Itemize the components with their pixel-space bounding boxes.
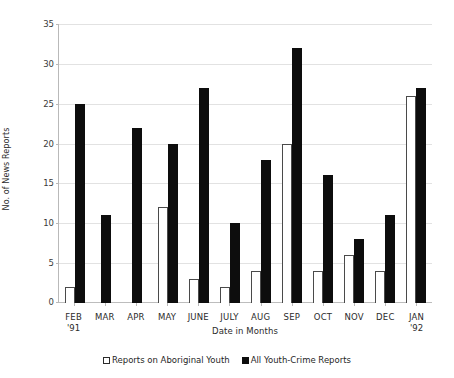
bar-sep-series2 bbox=[292, 48, 302, 303]
x-tickmark-nov bbox=[354, 303, 355, 306]
x-tick-label-july: JULY bbox=[214, 312, 245, 323]
x-tick-label-mar: MAR bbox=[89, 312, 120, 323]
legend-entry-2[interactable]: All Youth-Crime Reports bbox=[242, 355, 351, 365]
x-tick-june: JUNE bbox=[183, 303, 214, 343]
x-tickmark-jan bbox=[416, 303, 417, 306]
bar-group-apr bbox=[121, 24, 152, 303]
bar-group-sep bbox=[277, 24, 308, 303]
bar-nov-series1 bbox=[344, 255, 354, 303]
y-tick-label-5: 5 bbox=[49, 258, 54, 268]
y-tick-label-30: 30 bbox=[43, 59, 54, 69]
bar-may-series2 bbox=[168, 144, 178, 303]
chart-legend: Reports on Aboriginal YouthAll Youth-Cri… bbox=[0, 355, 454, 365]
bar-feb-series2 bbox=[75, 104, 85, 303]
x-tick-label-sep: SEP bbox=[276, 312, 307, 323]
x-tick-dec: DEC bbox=[370, 303, 401, 343]
x-tick-july: JULY bbox=[214, 303, 245, 343]
y-axis-title: No. of News Reports bbox=[2, 104, 11, 234]
y-tick-label-25: 25 bbox=[43, 99, 54, 109]
x-tick-apr: APR bbox=[120, 303, 151, 343]
x-axis-title: Date in Months bbox=[58, 326, 432, 336]
x-tick-label-dec: DEC bbox=[370, 312, 401, 323]
x-tick-label-apr: APR bbox=[120, 312, 151, 323]
plot-area: 05101520253035 bbox=[58, 24, 432, 303]
bar-group-feb bbox=[59, 24, 90, 303]
x-tickmark-oct bbox=[323, 303, 324, 306]
x-tick-mar: MAR bbox=[89, 303, 120, 343]
y-tick-label-20: 20 bbox=[43, 139, 54, 149]
x-tick-label-nov: NOV bbox=[339, 312, 370, 323]
bar-sep-series1 bbox=[282, 144, 292, 303]
x-tick-oct: OCT bbox=[307, 303, 338, 343]
bar-oct-series1 bbox=[313, 271, 323, 303]
legend-swatch-icon-1 bbox=[103, 357, 110, 364]
y-tick-label-0: 0 bbox=[49, 297, 54, 307]
x-tick-label-oct: OCT bbox=[307, 312, 338, 323]
x-tick-label-jan: JAN bbox=[401, 312, 432, 323]
bar-group-dec bbox=[370, 24, 401, 303]
bar-june-series1 bbox=[189, 279, 199, 303]
x-tickmark-may bbox=[167, 303, 168, 306]
x-tick-label-feb: FEB bbox=[58, 312, 89, 323]
legend-swatch-icon-2 bbox=[242, 357, 249, 364]
bar-group-aug bbox=[245, 24, 276, 303]
x-tickmark-june bbox=[198, 303, 199, 306]
bar-group-may bbox=[152, 24, 183, 303]
x-axis-tick-labels: FEB'91MARAPRMAYJUNEJULYAUGSEPOCTNOVDECJA… bbox=[58, 303, 432, 343]
y-tick-label-35: 35 bbox=[43, 19, 54, 29]
x-tick-jan: JAN'92 bbox=[401, 303, 432, 343]
legend-label-1: Reports on Aboriginal Youth bbox=[112, 355, 230, 365]
bar-july-series1 bbox=[220, 287, 230, 303]
legend-label-2: All Youth-Crime Reports bbox=[251, 355, 351, 365]
x-tick-may: MAY bbox=[152, 303, 183, 343]
bar-group-oct bbox=[308, 24, 339, 303]
bar-mar-series2 bbox=[101, 215, 111, 303]
x-tickmark-mar bbox=[105, 303, 106, 306]
bar-dec-series1 bbox=[375, 271, 385, 303]
bar-jan-series1 bbox=[406, 96, 416, 303]
x-tick-aug: AUG bbox=[245, 303, 276, 343]
bar-chart-figure: No. of News Reports 05101520253035 FEB'9… bbox=[0, 0, 454, 378]
bar-groups bbox=[59, 24, 432, 303]
bar-dec-series2 bbox=[385, 215, 395, 303]
x-tick-sep: SEP bbox=[276, 303, 307, 343]
x-tickmark-dec bbox=[385, 303, 386, 306]
bar-feb-series1 bbox=[65, 287, 75, 303]
x-tick-feb: FEB'91 bbox=[58, 303, 89, 343]
bar-oct-series2 bbox=[323, 175, 333, 303]
x-tick-label-aug: AUG bbox=[245, 312, 276, 323]
x-tick-nov: NOV bbox=[339, 303, 370, 343]
x-tickmark-apr bbox=[136, 303, 137, 306]
bar-nov-series2 bbox=[354, 239, 364, 303]
bar-aug-series2 bbox=[261, 160, 271, 303]
bar-group-nov bbox=[339, 24, 370, 303]
x-tick-label-june: JUNE bbox=[183, 312, 214, 323]
x-tickmark-feb bbox=[74, 303, 75, 306]
bar-group-jan bbox=[401, 24, 432, 303]
bar-apr-series2 bbox=[132, 128, 142, 303]
x-tick-label-may: MAY bbox=[152, 312, 183, 323]
x-tickmark-aug bbox=[261, 303, 262, 306]
bar-jan-series2 bbox=[416, 88, 426, 303]
y-tick-label-15: 15 bbox=[43, 178, 54, 188]
bar-group-june bbox=[183, 24, 214, 303]
x-tickmark-july bbox=[229, 303, 230, 306]
bar-july-series2 bbox=[230, 223, 240, 303]
legend-entry-1[interactable]: Reports on Aboriginal Youth bbox=[103, 355, 230, 365]
bar-group-mar bbox=[90, 24, 121, 303]
bar-june-series2 bbox=[199, 88, 209, 303]
bar-group-july bbox=[214, 24, 245, 303]
x-tickmark-sep bbox=[292, 303, 293, 306]
bar-aug-series1 bbox=[251, 271, 261, 303]
y-tick-label-10: 10 bbox=[43, 218, 54, 228]
bar-may-series1 bbox=[158, 207, 168, 303]
